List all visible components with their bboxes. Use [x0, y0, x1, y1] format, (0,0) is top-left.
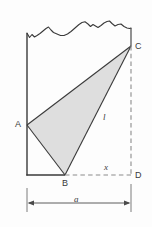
shaded-triangle-abc	[27, 46, 131, 175]
geometry-figure: A B C D l x a	[0, 0, 152, 227]
dimension-arrow-left	[28, 201, 35, 206]
figure-canvas	[0, 0, 152, 227]
segment-label-l: l	[103, 113, 106, 122]
vertex-label-b: B	[62, 179, 68, 188]
dimension-label-a: a	[74, 195, 79, 204]
broken-wall-top-edge	[27, 21, 131, 38]
segment-label-x: x	[104, 163, 108, 172]
dimension-arrow-right	[124, 201, 131, 206]
vertex-label-a: A	[15, 120, 21, 129]
vertex-label-d: D	[135, 171, 142, 180]
vertex-label-c: C	[135, 42, 142, 51]
